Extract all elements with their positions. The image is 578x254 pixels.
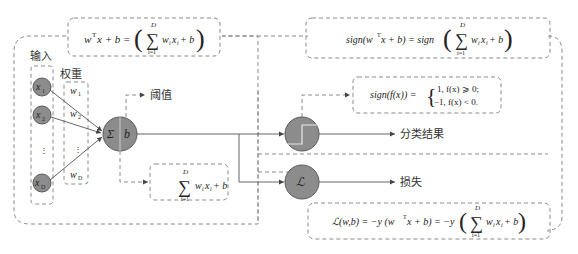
svg-text:i=1: i=1 [472, 232, 480, 238]
sign-definition-formula: sign(f(x)) = { 1, f(x) ⩾ 0; −1, f(x) < 0… [370, 83, 479, 108]
svg-text:w: w [162, 34, 169, 45]
sign-formula: sign(w T x + b) = sign ( ∑ D i=1 w i x i… [346, 21, 513, 56]
svg-text:1: 1 [78, 91, 81, 97]
svg-text:i: i [478, 40, 480, 46]
svg-text:i: i [493, 222, 495, 228]
svg-text:i: i [210, 186, 212, 192]
weighted-sum-formula: ∑ D i=1 w i x i + b [178, 168, 227, 202]
svg-text:+ b: + b [213, 180, 227, 191]
svg-text:w: w [70, 85, 77, 96]
svg-text:): ) [518, 208, 526, 234]
edge-sum-loss [239, 134, 284, 182]
svg-text:2: 2 [78, 114, 81, 120]
svg-text:): ) [504, 24, 513, 53]
svg-text:w: w [70, 108, 77, 119]
svg-text:(: ( [459, 208, 467, 234]
svg-text:w: w [70, 169, 77, 180]
svg-text:+ b: + b [180, 34, 194, 45]
svg-text:i: i [177, 40, 179, 46]
threshold-connector [126, 95, 145, 117]
input-ellipsis: ⋮ [40, 146, 48, 155]
svg-text:sign(f(x)) =: sign(f(x)) = [370, 89, 416, 101]
svg-text:(: ( [443, 24, 452, 53]
svg-text:w: w [195, 180, 202, 191]
svg-text:): ) [196, 24, 205, 53]
edge-x2-sum [51, 117, 101, 133]
svg-text:(: ( [134, 24, 143, 53]
svg-text:∑: ∑ [178, 177, 191, 197]
weight-w1: w1 [70, 85, 81, 97]
threshold-label: 阈值 [150, 88, 172, 102]
svg-text:x + b) = −y: x + b) = −y [406, 216, 455, 228]
loss-symbol: ℒ [296, 175, 305, 189]
svg-text:sign(w: sign(w [346, 34, 373, 46]
weight-ellipsis: ⋮ [74, 145, 82, 154]
sign-activation-node [285, 117, 319, 151]
svg-text:∑: ∑ [146, 30, 159, 50]
svg-text:w: w [471, 34, 478, 45]
classification-result-label: 分类结果 [400, 127, 444, 141]
svg-text:+ b: + b [489, 34, 503, 45]
loss-node: ℒ [285, 165, 319, 199]
svg-text:D: D [41, 184, 46, 190]
input-label: 输入 [30, 49, 52, 63]
svg-text:x + b) = sign: x + b) = sign [380, 34, 434, 46]
svg-text:∑: ∑ [470, 213, 483, 233]
svg-text:w: w [84, 33, 92, 45]
svg-text:−1, f(x) < 0.: −1, f(x) < 0. [434, 97, 478, 107]
right-bracket [548, 36, 562, 232]
svg-text:2: 2 [42, 116, 45, 122]
loss-label: 损失 [400, 175, 422, 189]
sigma-symbol: Σ [106, 127, 114, 141]
linear-formula: w T x + b = ( ∑ D i=1 w i x i + b ) [84, 21, 205, 55]
svg-text:1: 1 [42, 88, 45, 94]
svg-text:D: D [459, 21, 465, 29]
perceptron-diagram: w T x + b = ( ∑ D i=1 w i x i + b ) 输入 权… [0, 0, 578, 254]
weighted-sum-connector [120, 151, 148, 182]
svg-text:ℒ(w,b) = −y (w: ℒ(w,b) = −y (w [332, 216, 395, 228]
svg-text:D: D [474, 204, 480, 212]
svg-text:+ b: + b [504, 216, 518, 227]
svg-text:D: D [78, 175, 83, 181]
loss-formula: ℒ(w,b) = −y (w T x + b) = −y ( ∑ D i=1 w… [332, 204, 526, 238]
bias-symbol: b [124, 127, 130, 141]
input-node-x1: x1 [33, 78, 51, 96]
svg-text:D: D [150, 21, 156, 29]
svg-text:i: i [169, 40, 171, 46]
svg-text:i=1: i=1 [457, 50, 465, 56]
svg-text:i=1: i=1 [148, 49, 156, 55]
svg-text:w: w [486, 216, 493, 227]
svg-text:D: D [182, 168, 188, 176]
svg-text:i: i [486, 40, 488, 46]
svg-text:i=1: i=1 [181, 196, 189, 202]
svg-text:1, f(x) ⩾ 0;: 1, f(x) ⩾ 0; [437, 84, 479, 94]
svg-text:x: x [35, 81, 41, 92]
sign-def-connector [302, 95, 350, 117]
sum-node: Σ b [103, 117, 137, 151]
svg-text:x: x [35, 109, 41, 120]
svg-text:x: x [34, 177, 40, 188]
weight-wD: wD [70, 169, 83, 181]
svg-text:x + b =: x + b = [96, 33, 130, 45]
svg-text:i: i [202, 186, 204, 192]
svg-text:∑: ∑ [455, 30, 468, 50]
weights-label: 权重 [60, 67, 82, 81]
input-node-xD: xD [33, 174, 51, 192]
input-node-x2: x2 [33, 106, 51, 124]
svg-text:i: i [501, 222, 503, 228]
